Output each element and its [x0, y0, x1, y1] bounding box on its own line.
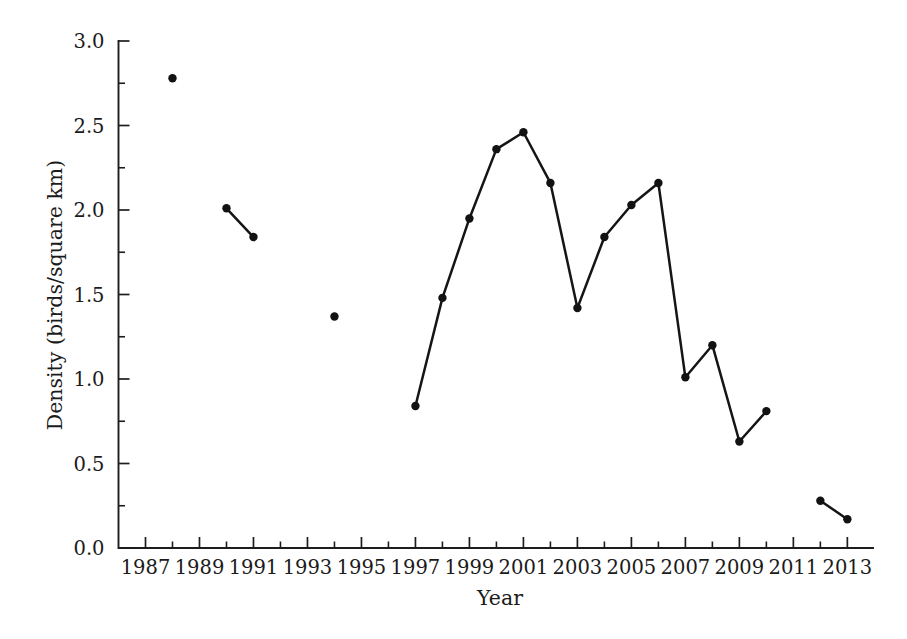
- data-point-marker: [168, 74, 176, 82]
- data-point-marker: [465, 214, 473, 222]
- data-point-marker: [546, 179, 554, 187]
- data-point-marker: [816, 496, 824, 504]
- data-point-marker: [681, 373, 689, 381]
- x-tick-label: 2009: [715, 556, 765, 579]
- x-tick-label: 1999: [445, 556, 495, 579]
- data-point-marker: [843, 515, 851, 523]
- x-tick-label: 1989: [175, 556, 225, 579]
- data-point-marker: [411, 402, 419, 410]
- x-tick-label: 1991: [229, 556, 279, 579]
- data-point-marker: [600, 233, 608, 241]
- data-point-marker: [519, 128, 527, 136]
- ticks-group: [119, 41, 848, 548]
- data-point-marker: [222, 204, 230, 212]
- data-point-marker: [735, 437, 743, 445]
- x-tick-label: 1987: [121, 556, 171, 579]
- x-tick-label: 2013: [823, 556, 873, 579]
- x-tick-label: 2003: [553, 556, 603, 579]
- data-point-marker: [654, 179, 662, 187]
- y-tick-label: 3.0: [73, 30, 104, 53]
- y-tick-label: 1.0: [73, 368, 104, 391]
- figure-container: 0.00.51.01.52.02.53.01987198919911993199…: [0, 0, 907, 639]
- data-series-group: [168, 74, 851, 523]
- data-point-marker: [249, 233, 257, 241]
- tick-labels-group: 0.00.51.01.52.02.53.01987198919911993199…: [73, 30, 872, 579]
- line-chart: 0.00.51.01.52.02.53.01987198919911993199…: [0, 0, 907, 639]
- data-point-marker: [438, 294, 446, 302]
- x-tick-label: 1995: [337, 556, 387, 579]
- x-tick-label: 1997: [391, 556, 441, 579]
- x-tick-label: 2001: [499, 556, 549, 579]
- axes-group: [119, 41, 874, 548]
- axis-titles-group: Year Density (birds/square km): [43, 160, 523, 610]
- y-tick-label: 1.5: [73, 284, 104, 307]
- x-tick-label: 2005: [607, 556, 657, 579]
- axis-spines: [119, 41, 874, 548]
- data-point-marker: [708, 341, 716, 349]
- x-tick-label: 2007: [661, 556, 711, 579]
- y-tick-label: 0.0: [73, 537, 104, 560]
- data-point-marker: [492, 145, 500, 153]
- y-tick-label: 2.0: [73, 199, 104, 222]
- y-axis-title: Density (birds/square km): [43, 160, 67, 431]
- data-point-marker: [762, 407, 770, 415]
- data-line-segment: [226, 208, 253, 237]
- data-point-marker: [330, 312, 338, 320]
- data-line-segment: [415, 132, 766, 441]
- data-point-marker: [627, 201, 635, 209]
- data-line-segment: [820, 501, 847, 520]
- y-tick-label: 2.5: [73, 115, 104, 138]
- data-point-marker: [573, 304, 581, 312]
- x-tick-label: 2011: [769, 556, 819, 579]
- y-tick-label: 0.5: [73, 453, 104, 476]
- x-tick-label: 1993: [283, 556, 333, 579]
- x-axis-title: Year: [476, 586, 523, 610]
